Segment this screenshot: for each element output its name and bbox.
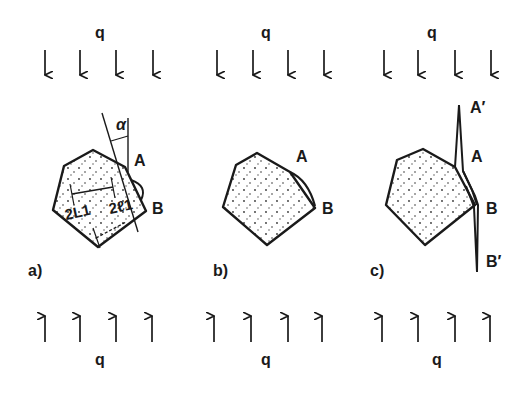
- grain-polygon-a: [53, 150, 146, 247]
- upward-load-arrows-b: [214, 316, 322, 342]
- panel-b: q A B b) q: [213, 24, 334, 368]
- panel-label-c: c): [370, 262, 384, 279]
- panel-label-b: b): [213, 262, 228, 279]
- load-q-bottom-b: q: [261, 351, 271, 368]
- downward-load-arrows-a: [45, 50, 153, 75]
- upward-load-arrows-a: [45, 316, 152, 342]
- point-b-label: B: [486, 200, 498, 217]
- point-b-prime-label: B′: [486, 253, 502, 270]
- point-b-label: B: [322, 200, 334, 217]
- downward-load-arrows-c: [384, 50, 491, 75]
- panel-label-a: a): [28, 262, 42, 279]
- grain-polygon-b: [223, 153, 315, 245]
- panel-c: q A′ A B B′ c) q: [370, 24, 502, 368]
- alpha-symbol: α: [116, 116, 127, 133]
- load-q-top-c: q: [427, 24, 437, 41]
- load-q-top-b: q: [261, 24, 271, 41]
- fracture-diagram: q α 2L1 2ℓ1 A B a) q: [0, 0, 531, 395]
- point-a-prime-label: A′: [470, 99, 486, 116]
- load-q-bottom-c: q: [432, 351, 442, 368]
- load-q-top-a: q: [95, 24, 105, 41]
- point-b-label: B: [152, 200, 164, 217]
- load-q-bottom-a: q: [95, 351, 105, 368]
- angle-arc: [111, 136, 128, 141]
- point-a-label: A: [134, 152, 146, 169]
- point-a-label: A: [471, 148, 483, 165]
- point-a-label: A: [296, 148, 308, 165]
- panel-a: q α 2L1 2ℓ1 A B a) q: [28, 24, 164, 368]
- upward-load-arrows-c: [382, 316, 490, 342]
- downward-load-arrows-b: [217, 50, 324, 75]
